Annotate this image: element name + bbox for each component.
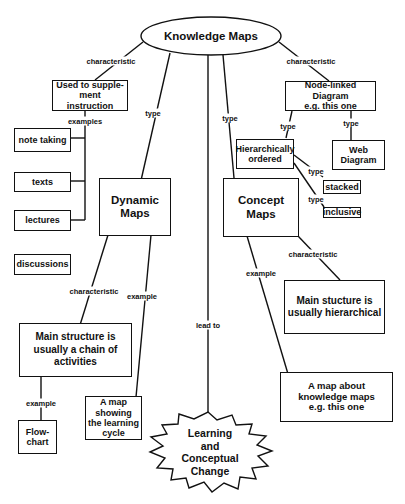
label-example: example [126, 292, 158, 301]
label-characteristic: characteristic [286, 57, 337, 66]
node-texts: texts [14, 172, 71, 192]
label-example: example [245, 269, 277, 278]
node-dynamic-maps: Dynamic Maps [99, 178, 171, 236]
label-lead-to: lead to [195, 321, 221, 330]
node-supplement-instruction: Used to supple- ment instruction [52, 80, 128, 111]
node-learning-cycle-map: A map showing the learning cycle [85, 396, 142, 440]
node-learning-conceptual-change: Learning and Conceptual Change [181, 427, 238, 477]
label-type: type [144, 109, 161, 118]
node-discussions: discussions [14, 254, 71, 275]
node-dynamic-main-structure: Main structure is usually a chain of act… [19, 323, 132, 377]
label-type: type [307, 167, 324, 176]
node-map-about-knowledge-maps: A map about knowledge maps e.g. this one [280, 372, 393, 422]
label-type: type [307, 195, 324, 204]
node-web-diagram: Web Diagram [332, 140, 385, 170]
node-inclusive: inclusive [323, 207, 361, 218]
label-type: type [279, 122, 296, 131]
label-characteristic: characteristic [69, 287, 120, 296]
label-example: example [25, 399, 57, 408]
node-node-linked-diagram: Node-linked Diagram e.g. this one [285, 81, 376, 111]
node-hierarchically-ordered: Hierarchically ordered [236, 139, 294, 169]
node-concept-main-structure: Main stucture is usually hierarchical [284, 280, 385, 334]
label-type: type [221, 114, 238, 123]
node-lectures: lectures [14, 210, 71, 231]
node-concept-maps: Concept Maps [223, 178, 299, 237]
node-stacked: stacked [323, 180, 361, 194]
label-characteristic: characteristic [288, 250, 339, 259]
label-characteristic: characteristic [86, 57, 137, 66]
label-examples: examples [67, 117, 103, 126]
node-flowchart: Flow- chart [18, 420, 57, 454]
root-node-knowledge-maps: Knowledge Maps [164, 30, 258, 42]
node-note-taking: note taking [14, 128, 71, 152]
label-type: type [342, 119, 359, 128]
